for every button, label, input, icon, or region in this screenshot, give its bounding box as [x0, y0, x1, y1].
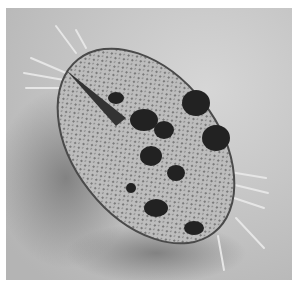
micrograph-photo — [6, 8, 292, 280]
ciliate-illustration — [6, 8, 292, 280]
